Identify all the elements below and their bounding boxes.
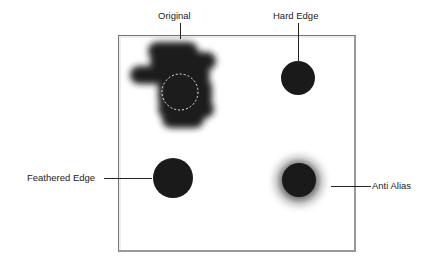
leader-hard-edge — [298, 23, 299, 63]
hard-edge-circle — [281, 61, 315, 95]
leader-anti-alias — [331, 186, 371, 187]
stroke-6 — [162, 110, 204, 128]
leader-feathered-edge — [104, 178, 152, 179]
label-hard-edge: Hard Edge — [273, 10, 318, 21]
original-brush-strokes — [130, 42, 216, 128]
leader-original — [180, 23, 181, 39]
anti-alias-circle — [282, 163, 316, 197]
feathered-edge-circle — [153, 158, 193, 198]
label-original: Original — [158, 10, 191, 21]
label-feathered-edge: Feathered Edge — [27, 172, 95, 183]
illustration — [0, 0, 438, 260]
label-anti-alias: Anti Alias — [372, 180, 411, 191]
